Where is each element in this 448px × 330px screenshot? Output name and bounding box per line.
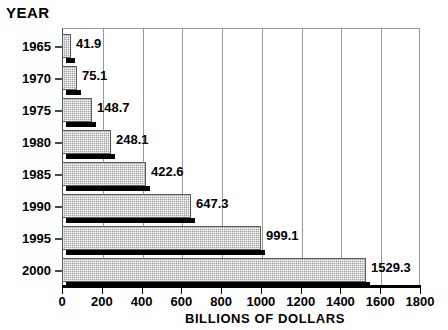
x-tick-label-0: 0 bbox=[58, 294, 65, 309]
y-tick-label-1995: 1995 bbox=[3, 231, 51, 246]
bar-body bbox=[62, 258, 366, 282]
bar-shadow bbox=[66, 282, 370, 287]
x-tick-label-1800: 1800 bbox=[406, 294, 435, 309]
gridline bbox=[381, 29, 382, 286]
y-tick-label-1965: 1965 bbox=[3, 39, 51, 54]
bar-shadow bbox=[66, 218, 195, 223]
bar-body bbox=[62, 130, 111, 154]
bar-shadow bbox=[66, 186, 150, 191]
bar-body bbox=[62, 66, 77, 90]
y-tick-label-1975: 1975 bbox=[3, 103, 51, 118]
x-tick-label-400: 400 bbox=[131, 294, 153, 309]
y-tick-label-1990: 1990 bbox=[3, 199, 51, 214]
y-tick-label-2000: 2000 bbox=[3, 263, 51, 278]
bar-value-1975: 148.7 bbox=[97, 100, 130, 115]
x-tick-label-1000: 1000 bbox=[246, 294, 275, 309]
bar-body bbox=[62, 34, 71, 58]
x-tick-label-200: 200 bbox=[91, 294, 113, 309]
x-tick-label-1200: 1200 bbox=[286, 294, 315, 309]
x-tick-label-1600: 1600 bbox=[366, 294, 395, 309]
bar-shadow bbox=[66, 122, 96, 127]
bar-shadow bbox=[66, 58, 75, 63]
x-axis-title-text: BILLIONS OF DOLLARS bbox=[185, 311, 345, 326]
bar-body bbox=[62, 162, 146, 186]
x-tick-label-1400: 1400 bbox=[326, 294, 355, 309]
bar-value-1980: 248.1 bbox=[116, 132, 149, 147]
x-tick-label-600: 600 bbox=[170, 294, 192, 309]
x-axis-title: BILLIONS OF DOLLARS bbox=[0, 311, 448, 326]
bar-shadow bbox=[66, 90, 81, 95]
x-tick-label-800: 800 bbox=[210, 294, 232, 309]
bar-value-2000: 1529.3 bbox=[371, 260, 411, 275]
bar-value-1990: 647.3 bbox=[196, 196, 229, 211]
bar-value-1970: 75.1 bbox=[82, 68, 107, 83]
y-tick-label-1985: 1985 bbox=[3, 167, 51, 182]
bar-body bbox=[62, 226, 261, 250]
gridline bbox=[302, 29, 303, 286]
bar-body bbox=[62, 98, 92, 122]
bar-shadow bbox=[66, 154, 115, 159]
gridline bbox=[341, 29, 342, 286]
gridline bbox=[262, 29, 263, 286]
y-tick-label-1980: 1980 bbox=[3, 135, 51, 150]
y-axis-title: YEAR bbox=[6, 4, 50, 21]
bar-chart: YEAR 1965 1970 1975 1980 1985 1990 1995 … bbox=[0, 0, 448, 330]
bar-value-1985: 422.6 bbox=[151, 164, 184, 179]
bar-value-1965: 41.9 bbox=[76, 36, 101, 51]
bar-shadow bbox=[66, 250, 265, 255]
bar-body bbox=[62, 194, 191, 218]
bar-value-1995: 999.1 bbox=[266, 228, 299, 243]
y-tick-label-1970: 1970 bbox=[3, 71, 51, 86]
